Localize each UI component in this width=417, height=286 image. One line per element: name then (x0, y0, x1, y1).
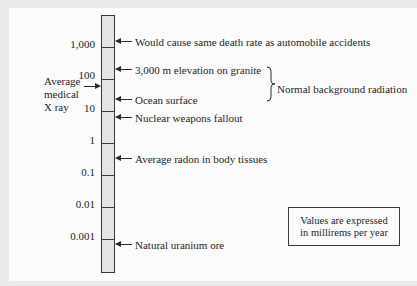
scale-label-100: 100 (79, 69, 96, 81)
brace-icon (266, 66, 276, 102)
tick-0-001 (101, 239, 115, 240)
tick-100 (101, 79, 115, 80)
annotation-medical-xray: Average medical X ray (44, 75, 80, 114)
tick-0-01 (101, 207, 115, 208)
arrow-icon (116, 69, 132, 70)
units-note-box: Values are expressed in millirems per ye… (288, 207, 400, 246)
arrow-icon (116, 244, 132, 245)
scale-label-10: 10 (84, 102, 95, 114)
annotation-automobile-accidents: Would cause same death rate as automobil… (135, 36, 370, 48)
scale-label-0-01: 0.01 (76, 198, 95, 210)
arrow-icon (116, 99, 132, 100)
annotation-uranium-ore: Natural uranium ore (135, 239, 224, 251)
arrow-icon (116, 117, 132, 118)
annotation-elevation-granite: 3,000 m elevation on granite (135, 64, 261, 76)
brace-label-background-radiation: Normal background radiation (277, 83, 407, 95)
arrow-icon (116, 41, 132, 42)
tick-1 (101, 143, 115, 144)
annotation-radon: Average radon in body tissues (135, 153, 267, 165)
tick-0-1 (101, 175, 115, 176)
annotation-nuclear-fallout: Nuclear weapons fallout (135, 112, 243, 124)
scale-label-1: 1 (90, 134, 96, 146)
annotation-ocean-surface: Ocean surface (135, 94, 198, 106)
tick-1000 (101, 47, 115, 48)
scale-label-0-001: 0.001 (70, 230, 95, 242)
scale-label-0-1: 0.1 (81, 166, 95, 178)
arrow-right-icon (84, 86, 100, 87)
dose-scale-bar (101, 15, 115, 273)
scale-label-1000: 1,000 (70, 38, 95, 50)
tick-10 (101, 111, 115, 112)
arrow-icon (116, 158, 132, 159)
